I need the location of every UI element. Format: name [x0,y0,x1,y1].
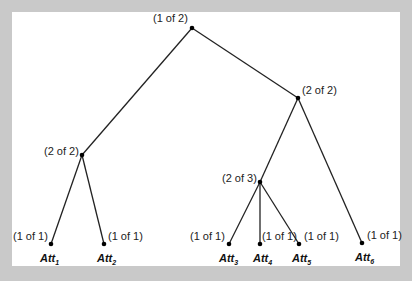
attribute-label: Att5 [291,252,311,266]
node-count-label: (1 of 1) [190,230,225,242]
node-count-label: (1 of 1) [262,230,297,242]
node-dot [80,153,85,158]
tree-edge [82,28,192,155]
tree-edge [51,155,82,244]
node-count-label: (2 of 2) [302,84,337,96]
attribute-label: Att2 [96,252,116,266]
tree-edge [298,98,362,243]
node-dot [49,242,54,247]
tree-edge [260,98,298,182]
node-dot [102,242,107,247]
node-count-label: (1 of 1) [304,230,339,242]
node-count-label: (1 of 1) [367,229,402,241]
node-dot [297,242,302,247]
node-dot [258,242,263,247]
node-count-label: (2 of 2) [44,145,79,157]
tree-edge [82,155,104,244]
tree-edge [192,28,298,98]
tree-diagram: (1 of 2)(2 of 2)(2 of 2)(2 of 3)(1 of 1)… [0,0,412,281]
attribute-label: Att1 [39,252,59,266]
node-count-label: (2 of 3) [222,172,257,184]
attribute-label: Att6 [354,251,374,265]
node-count-label: (1 of 1) [13,230,48,242]
node-dot [190,26,195,31]
node-dot [360,241,365,246]
attribute-label: Att3 [218,252,238,266]
tree-edge [229,182,260,244]
attribute-label: Att4 [252,252,272,266]
node-dot [227,242,232,247]
node-dot [296,96,301,101]
node-count-label: (1 of 2) [153,12,188,24]
node-dot [258,180,263,185]
node-count-label: (1 of 1) [108,230,143,242]
